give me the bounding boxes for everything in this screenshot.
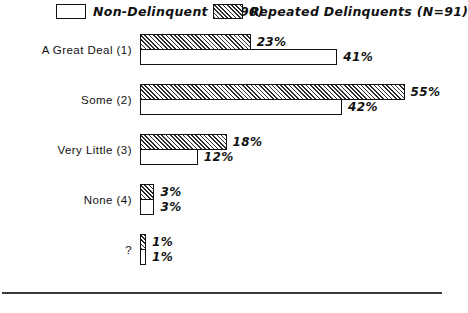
bottom-divider bbox=[2, 292, 442, 294]
bar-group: A Great Deal (1)23%41% bbox=[0, 34, 444, 68]
bar-value-label: 12% bbox=[204, 150, 234, 164]
bar-row: 18% bbox=[140, 134, 263, 150]
bar-plain bbox=[140, 49, 337, 65]
bar-row: 55% bbox=[140, 84, 440, 100]
bar-value-label: 42% bbox=[348, 100, 378, 114]
legend-swatch-plain-icon bbox=[56, 4, 86, 19]
bar-value-label: 1% bbox=[152, 250, 173, 264]
bar-value-label: 23% bbox=[257, 35, 287, 49]
legend-label-repeated-delinquents: Repeated Delinquents (N=91) bbox=[250, 4, 468, 19]
bar-group: Some (2)55%42% bbox=[0, 84, 444, 118]
legend-entry-repeated-delinquents: Repeated Delinquents (N=91) bbox=[213, 4, 468, 19]
bar-hatched bbox=[140, 134, 227, 150]
bar-value-label: 18% bbox=[233, 135, 263, 149]
bar-value-label: 1% bbox=[152, 235, 173, 249]
bar-chart-plot-area: A Great Deal (1)23%41%Some (2)55%42%Very… bbox=[0, 32, 444, 284]
legend-swatch-hatched-icon bbox=[213, 4, 243, 19]
chart-legend: Non-Delinquent (N=90) Repeated Delinquen… bbox=[0, 4, 444, 26]
bar-row: 1% bbox=[140, 249, 173, 265]
bar-hatched bbox=[140, 234, 146, 250]
bar-row: 12% bbox=[140, 149, 234, 165]
bar-plain bbox=[140, 249, 146, 265]
bar-row: 41% bbox=[140, 49, 373, 65]
bar-plain bbox=[140, 99, 342, 115]
bar-value-label: 55% bbox=[411, 85, 441, 99]
bar-row: 3% bbox=[140, 184, 182, 200]
bar-value-label: 3% bbox=[160, 200, 181, 214]
bar-row: 23% bbox=[140, 34, 287, 50]
bar-group: None (4)3%3% bbox=[0, 184, 444, 218]
bar-row: 3% bbox=[140, 199, 182, 215]
bar-hatched bbox=[140, 34, 251, 50]
bar-plain bbox=[140, 199, 154, 215]
category-label: A Great Deal (1) bbox=[4, 44, 132, 56]
category-label: Some (2) bbox=[4, 94, 132, 106]
bar-plain bbox=[140, 149, 198, 165]
bar-value-label: 3% bbox=[160, 185, 181, 199]
bar-hatched bbox=[140, 184, 154, 200]
bar-group: Very Little (3)18%12% bbox=[0, 134, 444, 168]
bar-hatched bbox=[140, 84, 405, 100]
category-label: ? bbox=[4, 244, 132, 256]
bar-row: 1% bbox=[140, 234, 173, 250]
bar-value-label: 41% bbox=[343, 50, 373, 64]
bar-row: 42% bbox=[140, 99, 378, 115]
category-label: None (4) bbox=[4, 194, 132, 206]
category-label: Very Little (3) bbox=[4, 144, 132, 156]
bar-group: ?1%1% bbox=[0, 234, 444, 268]
